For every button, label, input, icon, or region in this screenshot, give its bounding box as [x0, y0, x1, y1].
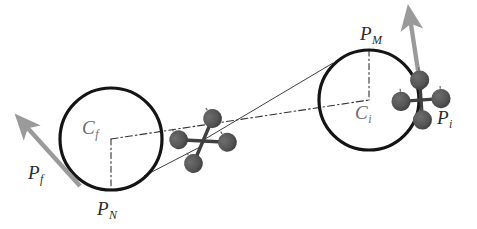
label-p-n-base: P — [97, 198, 109, 219]
quad-rotor — [164, 124, 192, 153]
label-p-i-sub: i — [449, 117, 452, 131]
label-p-i-base: P — [437, 107, 449, 128]
label-c-i-base: C — [355, 102, 368, 123]
label-c-f-base: C — [82, 117, 95, 138]
tangent-line-upper — [200, 63, 333, 142]
label-c-f: Cf — [82, 118, 99, 140]
label-p-m-base: P — [360, 23, 372, 44]
label-p-f-sub: f — [40, 172, 43, 186]
label-p-f-base: P — [28, 162, 40, 183]
quad-rotor — [198, 103, 226, 132]
construction-lines — [111, 50, 369, 190]
figure-canvas: Cf Pf PN PM Ci Pi — [0, 0, 477, 229]
label-p-m: PM — [360, 24, 382, 46]
quadcopter-final — [164, 103, 240, 177]
diagram-svg — [0, 0, 477, 229]
tangent-lines — [144, 63, 333, 176]
label-p-n: PN — [97, 199, 117, 221]
label-p-n-sub: N — [109, 208, 117, 222]
label-p-i: Pi — [437, 108, 452, 130]
label-p-m-sub: M — [372, 33, 382, 47]
quad-rotor — [179, 148, 207, 177]
label-c-i: Ci — [355, 103, 372, 125]
label-c-i-sub: i — [368, 112, 371, 126]
quad-rotor — [430, 85, 451, 108]
label-c-f-sub: f — [95, 127, 98, 141]
label-p-f: Pf — [28, 163, 43, 185]
quad-rotor — [391, 88, 412, 111]
